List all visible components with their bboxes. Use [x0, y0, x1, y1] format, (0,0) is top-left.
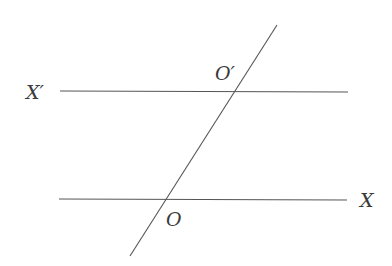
transversal-line [130, 25, 277, 256]
label-o: O [166, 208, 182, 230]
upper-parallel-line [60, 91, 348, 92]
label-x-prime: X′ [24, 81, 45, 103]
lower-parallel-line [59, 199, 347, 200]
diagram-canvas: X′ O′ O X [0, 0, 392, 266]
label-x: X [358, 189, 375, 211]
label-o-prime: O′ [215, 62, 236, 84]
diagram-svg: X′ O′ O X [0, 0, 392, 266]
